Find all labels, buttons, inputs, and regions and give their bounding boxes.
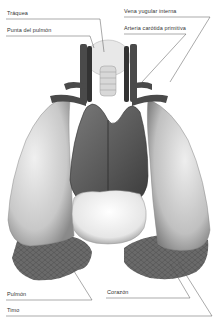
label-corazon: Corazón	[107, 289, 129, 295]
right-lung	[147, 100, 210, 250]
heart-lungs-illustration	[0, 0, 214, 332]
label-punta-pulmon: Punta del pulmón	[7, 27, 51, 33]
trachea	[100, 66, 116, 96]
thymus	[72, 190, 146, 244]
left-lung	[8, 100, 74, 246]
label-arteria-carotida: Arteria carótida primitiva	[124, 25, 186, 31]
label-traquea: Tráquea	[7, 10, 28, 16]
label-pulmon: Pulmón	[7, 291, 26, 297]
label-vena-yugular: Vena yugular interna	[124, 8, 176, 14]
label-timo: Timo	[7, 307, 19, 313]
